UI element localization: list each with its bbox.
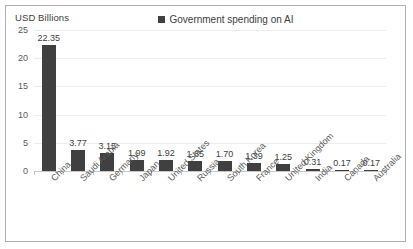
y-axis-tick-label: 10 [18, 110, 28, 120]
x-axis-labels: ChinaSaudi ArabiaGermanyJapanUnited Stat… [34, 176, 386, 246]
bar-slot: 0.17 [357, 30, 386, 171]
bar-slot: 1.70 [210, 30, 239, 171]
bar-series: 22.353.773.151.991.921.851.701.391.250.3… [34, 30, 386, 171]
y-axis-tick-label: 0 [23, 166, 28, 176]
bar-slot: 22.35 [34, 30, 63, 171]
bar-slot: 1.92 [151, 30, 180, 171]
x-axis-tick [34, 171, 35, 175]
bar-value-label: 3.77 [63, 138, 92, 148]
bar[interactable] [71, 150, 85, 171]
bar[interactable] [42, 45, 56, 171]
bar-slot: 1.25 [269, 30, 298, 171]
legend-label: Government spending on AI [170, 14, 294, 25]
bar-value-label: 22.35 [34, 33, 63, 43]
y-axis-tick-label: 15 [18, 81, 28, 91]
bar-slot: 1.99 [122, 30, 151, 171]
plot-area: 22.353.773.151.991.921.851.701.391.250.3… [34, 30, 386, 171]
y-axis-tick-label: 20 [18, 53, 28, 63]
y-axis-tick-label: 5 [23, 138, 28, 148]
chart-container: USD Billions Government spending on AI 2… [5, 5, 406, 242]
bar-slot: 0.17 [327, 30, 356, 171]
bar-slot: 3.77 [63, 30, 92, 171]
chart-legend: Government spending on AI [6, 14, 405, 25]
y-axis-labels: 2520151050 [6, 30, 32, 171]
legend-swatch-icon [158, 16, 165, 23]
y-axis-tick-label: 25 [18, 25, 28, 35]
bar-value-label: 1.92 [151, 148, 180, 158]
